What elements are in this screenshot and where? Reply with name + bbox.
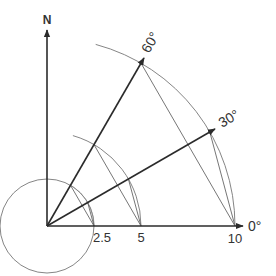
radius-label-2_5: 2.5 xyxy=(93,230,111,245)
radius-label-10: 10 xyxy=(228,231,242,246)
chord-5-0-30 xyxy=(128,179,141,226)
ray-60-deg xyxy=(47,58,144,226)
angle-label-0: 0° xyxy=(248,218,261,234)
ray-30-deg xyxy=(47,129,215,226)
radius-label-5: 5 xyxy=(137,230,144,245)
north-label: N xyxy=(43,13,52,27)
chord-2_5-0-30 xyxy=(88,203,94,227)
angle-label-60: 60° xyxy=(138,29,162,55)
arc-radius-10 xyxy=(96,44,235,226)
chord-10-0-30 xyxy=(210,132,235,226)
angle-label-30: 30° xyxy=(216,106,242,130)
arc-radius-5 xyxy=(73,136,141,226)
polar-diagram: N 0° 30° 60° 2.5 5 10 xyxy=(0,0,276,276)
